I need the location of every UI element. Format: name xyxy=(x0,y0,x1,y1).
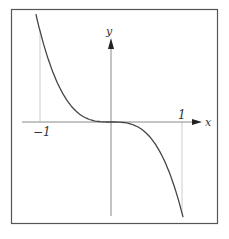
x-tick-pos1: 1 xyxy=(178,108,186,122)
x-axis-arrow-icon xyxy=(192,119,202,125)
cubic-function-plot: y x −1 1 xyxy=(0,0,229,239)
y-axis-arrow-icon xyxy=(108,38,114,49)
y-axis-label: y xyxy=(105,25,113,38)
x-tick-neg1: −1 xyxy=(33,125,51,139)
x-axis-label: x xyxy=(205,116,212,129)
